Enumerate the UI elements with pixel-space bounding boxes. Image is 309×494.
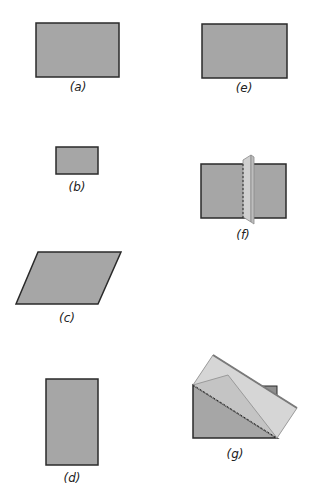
figure-f-folded <box>201 155 286 224</box>
figure-g-label: (g) <box>215 447 255 461</box>
figure-a-rectangle <box>36 23 119 77</box>
figure-b-rectangle <box>56 147 98 174</box>
figure-c-label: (c) <box>47 311 87 325</box>
figure-g-folded <box>193 355 297 438</box>
figure-f-label: (f) <box>223 228 263 242</box>
figure-d-rectangle <box>46 379 98 465</box>
figure-e-label: (e) <box>224 81 264 95</box>
diagram-canvas <box>0 0 309 494</box>
figure-e-rectangle <box>202 24 287 78</box>
figure-b-label: (b) <box>57 180 97 194</box>
figure-d-label: (d) <box>52 471 92 485</box>
figure-c-parallelogram <box>16 252 121 304</box>
figure-a-label: (a) <box>58 80 98 94</box>
